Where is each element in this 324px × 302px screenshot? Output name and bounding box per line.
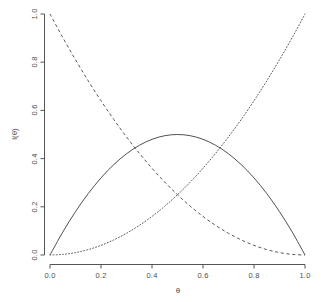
x-axis-tick-label: 0.0 [44,271,55,280]
likelihood-plot-figure: 0.00.20.40.60.81.0 0.00.20.40.60.81.0 θ … [0,0,324,302]
y-axis-tick-label: 0.6 [29,105,38,116]
x-axis-tick-label: 0.2 [95,271,106,280]
x-axis-ticks [50,265,305,269]
x-axis-tick-label: 1.0 [299,271,310,280]
x-axis-tick-label: 0.4 [146,271,157,280]
y-axis-tick-label: 1.0 [29,8,38,19]
plot-canvas [0,0,324,302]
x-axis-tick-label: 0.8 [248,271,259,280]
y-axis-tick-label: 0.0 [29,249,38,260]
y-axis-title: l(θ) [10,128,19,140]
data-series-layer [50,14,305,255]
x-axis-tick-label: 0.6 [197,271,208,280]
y-axis-ticks [41,14,45,255]
y-axis-tick-label: 0.2 [29,201,38,212]
y-axis-tick-label: 0.4 [29,153,38,164]
x-axis-title: θ [176,286,180,295]
y-axis-tick-label: 0.8 [29,57,38,68]
